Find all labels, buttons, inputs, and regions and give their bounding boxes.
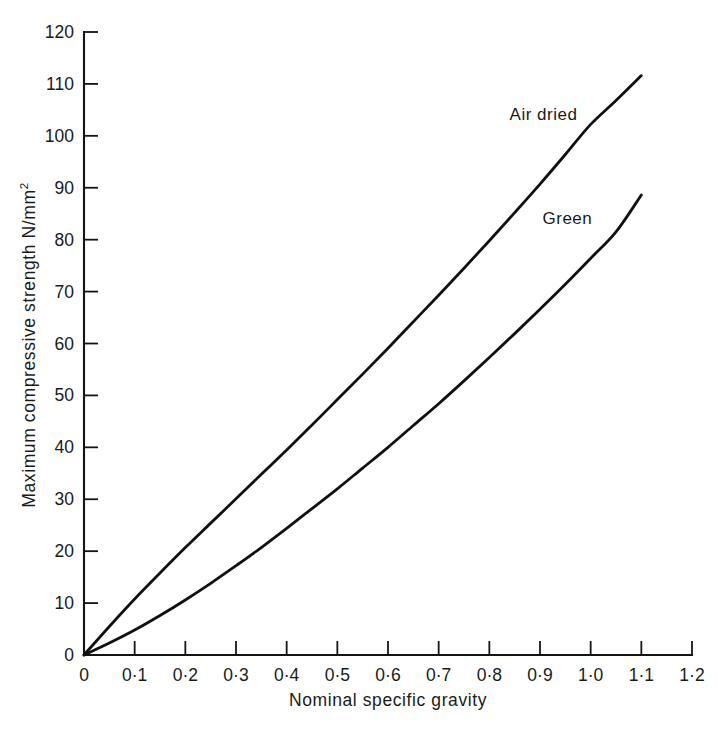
x-axis-tick-labels: 00·10·20·30·40·50·60·70·80·91·01·11·2 xyxy=(79,665,705,685)
axis-lines xyxy=(84,32,692,655)
y-tick-label-10: 10 xyxy=(55,593,75,613)
y-tick-label-60: 60 xyxy=(55,334,75,354)
y-tick-label-90: 90 xyxy=(55,178,75,198)
chart-figure: 0102030405060708090100110120 00·10·20·30… xyxy=(0,0,718,729)
x-tick-label-0: 0 xyxy=(79,665,89,685)
curve-air-dried xyxy=(84,76,641,655)
y-tick-label-100: 100 xyxy=(45,126,74,146)
x-tick-label-0·4: 0·4 xyxy=(274,665,300,685)
y-tick-label-40: 40 xyxy=(55,437,75,457)
y-tick-label-0: 0 xyxy=(64,645,74,665)
y-axis-title-superscript: 2 xyxy=(18,182,30,189)
data-series-group xyxy=(84,76,641,655)
y-axis-ticks xyxy=(84,32,98,603)
x-axis-ticks xyxy=(135,641,692,655)
x-tick-label-0·3: 0·3 xyxy=(223,665,248,685)
y-tick-label-120: 120 xyxy=(45,22,74,42)
y-tick-label-70: 70 xyxy=(55,282,75,302)
series-annotation-labels: Air driedGreen xyxy=(510,105,593,228)
y-tick-label-110: 110 xyxy=(46,74,74,94)
curve-green xyxy=(84,195,641,655)
x-tick-label-0·7: 0·7 xyxy=(426,665,451,685)
y-axis-tick-labels: 0102030405060708090100110120 xyxy=(45,22,74,665)
series-label-green: Green xyxy=(543,209,593,228)
x-tick-label-0·9: 0·9 xyxy=(527,665,552,685)
series-label-air-dried: Air dried xyxy=(510,105,578,124)
x-tick-label-0·1: 0·1 xyxy=(122,665,147,685)
y-tick-label-80: 80 xyxy=(55,230,75,250)
plot-axes xyxy=(84,32,692,655)
y-tick-label-20: 20 xyxy=(55,541,75,561)
compressive-strength-line-chart: 0102030405060708090100110120 00·10·20·30… xyxy=(0,0,718,729)
x-tick-label-0·2: 0·2 xyxy=(173,665,198,685)
y-tick-label-30: 30 xyxy=(55,489,75,509)
y-axis-title: Maximum compressive strength N/mm2 xyxy=(18,182,39,507)
y-axis-title-text: Maximum compressive strength N/mm xyxy=(19,189,39,507)
x-axis-title: Nominal specific gravity xyxy=(289,690,487,710)
x-tick-label-0·5: 0·5 xyxy=(325,665,350,685)
x-tick-label-1·2: 1·2 xyxy=(679,665,704,685)
x-tick-label-0·8: 0·8 xyxy=(477,665,502,685)
x-tick-label-1·1: 1·1 xyxy=(629,665,654,685)
x-tick-label-1·0: 1·0 xyxy=(578,665,604,685)
y-axis-title-group: Maximum compressive strength N/mm2 xyxy=(18,182,39,507)
y-tick-label-50: 50 xyxy=(55,385,75,405)
x-tick-label-0·6: 0·6 xyxy=(375,665,400,685)
